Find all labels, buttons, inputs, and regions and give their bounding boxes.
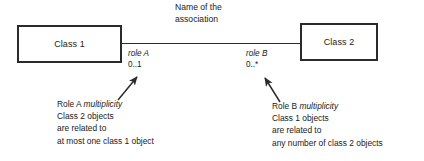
association-line — [122, 43, 300, 44]
annotation-role-b-line-1: Role B multiplicity — [272, 100, 383, 112]
annotation-role-a-line-2: Class 2 objects — [57, 110, 154, 122]
uml-diagram-canvas: Class 1 Class 2 Name of the association … — [0, 0, 424, 161]
annotation-role-a-line-3: are related to — [57, 122, 154, 134]
annotation-role-b-line-4: any number of class 2 objects — [272, 137, 383, 149]
role-b-name: role B — [246, 48, 267, 59]
annotation-role-a: Role A multiplicity Class 2 objects are … — [57, 98, 154, 147]
annotation-role-b-line-3: are related to — [272, 124, 383, 136]
class-box-class-2: Class 2 — [300, 23, 378, 61]
annotation-role-a-line-4: at most one class 1 object — [57, 135, 154, 147]
annotation-role-b-line-2: Class 1 objects — [272, 112, 383, 124]
class-label-class-1: Class 1 — [54, 39, 85, 49]
association-name-line-2: association — [175, 14, 222, 26]
role-a-label-block: role A 0..1 — [128, 48, 149, 70]
role-a-multiplicity: 0..1 — [128, 59, 149, 70]
annotation-role-b: Role B multiplicity Class 1 objects are … — [272, 100, 383, 149]
annotation-role-b-line-1-prefix: Role B — [272, 101, 299, 111]
association-name-line-1: Name of the — [175, 2, 222, 14]
annotation-role-b-line-1-emph: multiplicity — [299, 101, 338, 111]
class-label-class-2: Class 2 — [324, 37, 355, 47]
role-a-name: role A — [128, 48, 149, 59]
association-name-label: Name of the association — [175, 2, 222, 25]
annotation-role-a-line-1-emph: multiplicity — [84, 99, 123, 109]
class-box-class-1: Class 1 — [17, 25, 122, 63]
annotation-role-a-line-1: Role A multiplicity — [57, 98, 154, 110]
role-b-multiplicity: 0..* — [246, 59, 267, 70]
annotation-role-a-line-1-prefix: Role A — [57, 99, 84, 109]
role-b-label-block: role B 0..* — [246, 48, 267, 70]
